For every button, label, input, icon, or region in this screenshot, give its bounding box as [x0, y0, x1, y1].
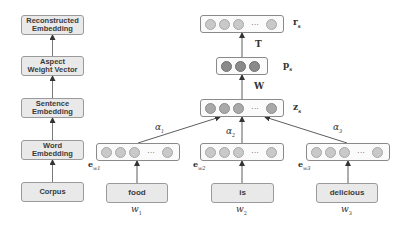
var-main: w: [236, 204, 244, 214]
word-box-is: is: [211, 183, 274, 203]
neuron-icon: [249, 61, 260, 72]
var-main: w: [131, 204, 139, 214]
neuron-icon: [311, 147, 322, 158]
neuron-icon: [339, 147, 350, 158]
word-box-delicious: delicious: [316, 183, 378, 203]
ellipsis: ···: [247, 20, 263, 29]
pipeline-step-aspect-weight-vector: AspectWeight Vector: [21, 56, 84, 76]
var-subscript: 2: [244, 210, 247, 216]
neuron-icon: [219, 103, 230, 114]
ellipsis: ···: [143, 148, 159, 157]
neuron-icon: [219, 19, 230, 30]
step-label-line2: Embedding: [32, 24, 73, 33]
step-label-line2: Embedding: [32, 107, 73, 116]
neuron-icon: [162, 147, 173, 158]
var-subscript: 3: [349, 210, 352, 216]
neuron-icon: [129, 147, 140, 158]
pipeline-step-sentence-embedding: SentenceEmbedding: [21, 98, 84, 118]
vector-e-w2: ···: [200, 143, 284, 161]
label-subscript: s: [289, 66, 292, 72]
weight-label-w: W: [254, 81, 264, 91]
vector-e-w1: ···: [96, 143, 180, 161]
neuron-icon: [233, 103, 244, 114]
word-text: is: [239, 189, 246, 198]
pipeline-step-reconstructed-embedding: ReconstructedEmbedding: [21, 15, 84, 35]
step-label-line2: Weight Vector: [28, 65, 78, 74]
neuron-icon: [205, 103, 216, 114]
label-subscript: w1: [93, 165, 100, 171]
label-subscript: s: [298, 23, 301, 29]
neuron-icon: [325, 147, 336, 158]
neuron-icon: [221, 61, 232, 72]
label-z-s: zs: [293, 102, 301, 114]
neuron-icon: [115, 147, 126, 158]
pipeline-step-word-embedding: WordEmbedding: [21, 140, 84, 160]
ellipsis: ···: [247, 104, 263, 113]
alpha-subscript: 1: [161, 128, 164, 134]
step-label-line2: Embedding: [32, 149, 73, 158]
label-subscript: s: [298, 108, 301, 114]
neuron-icon: [233, 147, 244, 158]
neuron-icon: [266, 103, 277, 114]
ellipsis: ···: [247, 148, 263, 157]
var-subscript: 1: [139, 210, 142, 216]
label-e-w3: ew3: [298, 159, 311, 171]
var-main: w: [341, 204, 349, 214]
vector-e-w3: ···: [306, 143, 390, 161]
alpha-subscript: 3: [339, 128, 342, 134]
label-p-s: ps: [283, 60, 292, 72]
attention-label-alpha-2: α2: [226, 126, 235, 138]
neuron-icon: [101, 147, 112, 158]
word-box-food: food: [106, 183, 168, 203]
word-var-w3: w3: [341, 204, 352, 216]
vector-r-s: ···: [200, 15, 284, 33]
vector-p-s: [216, 57, 268, 75]
label-e-w2: ew2: [193, 159, 206, 171]
label-subscript: w3: [303, 165, 310, 171]
attention-label-alpha-1: α1: [155, 122, 164, 134]
label-r-s: rs: [293, 17, 301, 29]
label-e-w1: ew1: [88, 159, 101, 171]
neuron-icon: [205, 19, 216, 30]
word-var-w1: w1: [131, 204, 142, 216]
neuron-icon: [205, 147, 216, 158]
alpha-subscript: 2: [232, 132, 235, 138]
neuron-icon: [266, 147, 277, 158]
neuron-icon: [219, 147, 230, 158]
neuron-icon: [235, 61, 246, 72]
attention-label-alpha-3: α3: [333, 122, 342, 134]
neuron-icon: [266, 19, 277, 30]
ellipsis: ···: [353, 148, 369, 157]
word-text: delicious: [330, 189, 365, 198]
neuron-icon: [233, 19, 244, 30]
pipeline-step-corpus: Corpus: [21, 182, 84, 202]
step-label-line1: Corpus: [39, 188, 65, 197]
label-subscript: w2: [198, 165, 205, 171]
word-var-w2: w2: [236, 204, 247, 216]
neuron-icon: [372, 147, 383, 158]
vector-z-s: ···: [200, 99, 284, 117]
weight-label-t: T: [255, 39, 262, 49]
word-text: food: [128, 189, 145, 198]
